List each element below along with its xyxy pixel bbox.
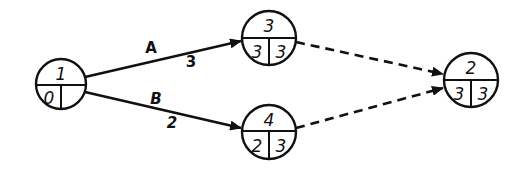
edge-labels: A 3 B 2 xyxy=(145,39,196,132)
node-3-label: 3 xyxy=(264,16,275,36)
node-4-left-value: 2 xyxy=(252,136,263,156)
node-2-right-value: 3 xyxy=(478,84,489,104)
node-4: 4 2 3 xyxy=(242,105,296,159)
edge-b-name: B xyxy=(150,90,161,108)
node-1-label: 1 xyxy=(56,64,67,84)
node-1: 1 0 xyxy=(36,59,86,109)
edge-a-1-to-3 xyxy=(85,41,241,77)
edge-dummy-4-to-2 xyxy=(296,88,443,128)
edge-b-1-to-4 xyxy=(85,92,241,128)
edge-a-name: A xyxy=(145,39,157,57)
node-2-left-value: 3 xyxy=(454,84,465,104)
edge-b-duration: 2 xyxy=(167,114,177,132)
node-4-label: 4 xyxy=(264,110,275,130)
edge-a-duration: 3 xyxy=(186,53,196,71)
node-3-left-value: 3 xyxy=(252,42,263,62)
node-4-right-value: 3 xyxy=(276,136,287,156)
node-2: 2 3 3 xyxy=(444,53,498,107)
node-3-right-value: 3 xyxy=(276,42,287,62)
node-1-left-value: 0 xyxy=(44,88,55,108)
node-3: 3 3 3 xyxy=(242,11,296,65)
network-diagram: A 3 B 2 1 0 3 3 3 4 2 3 2 3 3 xyxy=(0,0,523,175)
node-2-label: 2 xyxy=(466,58,477,78)
edge-dummy-3-to-2 xyxy=(296,42,443,74)
